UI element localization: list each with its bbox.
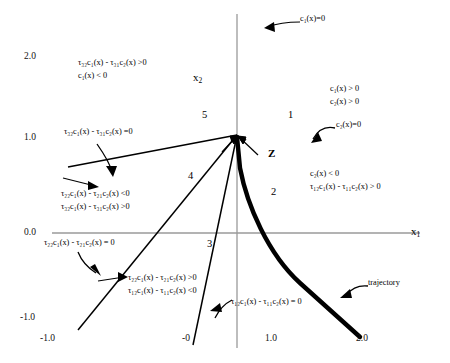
switching-line-tau32 [68, 135, 237, 167]
annotation-mid-right-line-2: τ₁₂c₁(x) - τ₁₁c₂(x) > 0 [310, 181, 381, 194]
y-tick-minus-1-0: -1.0 [20, 313, 35, 323]
y-tick-0-0: 0.0 [24, 228, 36, 238]
annotation-lower-mid-line-1: τ₂₂c₁(x) - τ₂₁c₂(x) >0 [128, 272, 197, 285]
annotation-trajectory: trajectory [368, 279, 400, 288]
annotation-upper-right-line-1: c₁(x) > 0 [330, 83, 359, 96]
annotation-line32-zero: τ₃₂c₁(x) - τ₃₁c₂(x) =0 [64, 126, 133, 139]
point-label-z: Z [268, 148, 275, 160]
annotation-upper-left-line-2: c₁(x) < 0 [78, 70, 147, 83]
x-tick-2-0: 2.0 [356, 334, 368, 344]
switching-line-tau12 [193, 135, 237, 345]
annotation-line22-zero: τ₂₂c₁(x) - τ₂₁c₂(x) = 0 [44, 237, 115, 250]
y-tick-1-0: 1.0 [24, 133, 36, 143]
annotation-upper-right: c₁(x) > 0 c₂(x) > 0 [330, 83, 359, 109]
region-label-4: 4 [188, 170, 193, 181]
annotation-mid-left-line-1: τ₂₂c₁(x) - τ₂₁c₂(x) <0 [61, 188, 130, 201]
leader-tau22-zero [78, 252, 101, 276]
annotation-lower-mid-line-2: τ₁₂c₁(x) - τ₁₁c₂(x) <0 [128, 285, 197, 298]
region-label-2: 2 [271, 186, 276, 197]
leader-tau12-zero [210, 300, 232, 318]
leader-c2-zero [311, 127, 335, 143]
leader-trajectory [340, 286, 368, 298]
x-tick-minus-0: -0 [182, 334, 190, 344]
leader-c1-zero [264, 22, 300, 32]
region-label-1: 1 [288, 109, 293, 120]
annotation-mid-left-line-2: τ₃₂c₁(x) - τ₃₁c₂(x) >0 [61, 201, 130, 214]
annotation-c2-zero: c₂(x)=0 [336, 121, 361, 130]
region-label-5: 5 [202, 109, 207, 120]
y-tick-2-0: 2.0 [24, 52, 36, 62]
annotation-mid-left: τ₂₂c₁(x) - τ₂₁c₂(x) <0 τ₃₂c₁(x) - τ₃₁c₂(… [61, 188, 130, 214]
annotation-upper-left-line-1: τ₃₂c₁(x) - τ₃₁c₂(x) >0 [78, 57, 147, 70]
annotation-mid-right-line-1: c₂(x) < 0 [310, 168, 381, 181]
annotation-c1-zero: c₁(x)=0 [300, 15, 325, 24]
annotation-upper-right-line-2: c₂(x) > 0 [330, 96, 359, 109]
annotation-mid-right: c₂(x) < 0 τ₁₂c₁(x) - τ₁₁c₂(x) > 0 [310, 168, 381, 194]
phase-diagram-figure [0, 0, 450, 363]
x-tick-1-0: 1.0 [265, 334, 277, 344]
annotation-upper-left: τ₃₂c₁(x) - τ₃₁c₂(x) >0 c₁(x) < 0 [78, 57, 147, 83]
annotation-lower-mid: τ₂₂c₁(x) - τ₂₁c₂(x) >0 τ₁₂c₁(x) - τ₁₁c₂(… [128, 272, 197, 298]
region-label-3: 3 [207, 238, 212, 249]
x-axis-label: x1 [411, 226, 420, 239]
y-axis-label: x2 [193, 72, 202, 85]
x-tick-minus-1-0: -1.0 [40, 334, 55, 344]
annotation-line12-zero: τ₁₂c₁(x) - τ₁₁c₂(x) = 0 [231, 296, 302, 309]
